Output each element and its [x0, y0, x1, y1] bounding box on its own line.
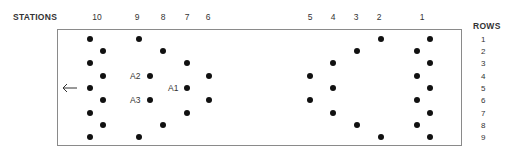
position-dot: [427, 134, 433, 140]
position-dot: [414, 122, 420, 128]
position-dot: [414, 48, 420, 54]
position-dot: [184, 60, 190, 66]
position-dot: [184, 85, 190, 91]
position-dot: [87, 36, 93, 42]
row-label: 3: [481, 59, 485, 68]
position-dot: [147, 97, 153, 103]
position-dot: [100, 97, 106, 103]
station-label: 9: [135, 12, 140, 22]
station-label: 7: [185, 12, 190, 22]
position-dot: [147, 73, 153, 79]
position-dot: [100, 48, 106, 54]
position-dot: [330, 85, 336, 91]
position-dot: [136, 134, 142, 140]
position-dot: [378, 36, 384, 42]
position-dot: [414, 73, 420, 79]
position-dot: [378, 134, 384, 140]
left-arrow-icon: [62, 82, 78, 94]
station-label: 3: [354, 12, 359, 22]
row-label: 1: [481, 35, 485, 44]
station-label: 6: [206, 12, 211, 22]
position-dot: [184, 110, 190, 116]
annotation-label: A1: [168, 83, 178, 93]
station-label: 5: [308, 12, 313, 22]
row-label: 4: [481, 72, 485, 81]
position-dot: [100, 122, 106, 128]
row-label: 8: [481, 121, 485, 130]
position-dot: [414, 97, 420, 103]
position-dot: [354, 48, 360, 54]
rows-header: ROWS: [473, 21, 501, 31]
position-dot: [427, 110, 433, 116]
position-dot: [307, 73, 313, 79]
stations-header: STATIONS: [13, 12, 57, 22]
position-dot: [330, 110, 336, 116]
position-dot: [87, 110, 93, 116]
row-label: 9: [481, 133, 485, 142]
position-dot: [87, 134, 93, 140]
annotation-label: A2: [130, 71, 140, 81]
station-label: 8: [161, 12, 166, 22]
row-label: 7: [481, 109, 485, 118]
position-dot: [160, 122, 166, 128]
position-dot: [206, 97, 212, 103]
diagram-frame: [57, 29, 462, 146]
annotation-label: A3: [130, 95, 140, 105]
position-dot: [427, 36, 433, 42]
station-label: 1: [420, 12, 425, 22]
position-dot: [87, 60, 93, 66]
position-dot: [427, 60, 433, 66]
station-label: 4: [331, 12, 336, 22]
position-dot: [330, 60, 336, 66]
station-label: 2: [377, 12, 382, 22]
position-dot: [307, 97, 313, 103]
row-label: 2: [481, 47, 485, 56]
station-label: 10: [92, 12, 101, 22]
position-dot: [354, 122, 360, 128]
position-dot: [427, 85, 433, 91]
position-dot: [206, 73, 212, 79]
row-label: 6: [481, 96, 485, 105]
position-dot: [136, 36, 142, 42]
position-dot: [160, 48, 166, 54]
position-dot: [100, 73, 106, 79]
position-dot: [87, 85, 93, 91]
row-label: 5: [481, 84, 485, 93]
